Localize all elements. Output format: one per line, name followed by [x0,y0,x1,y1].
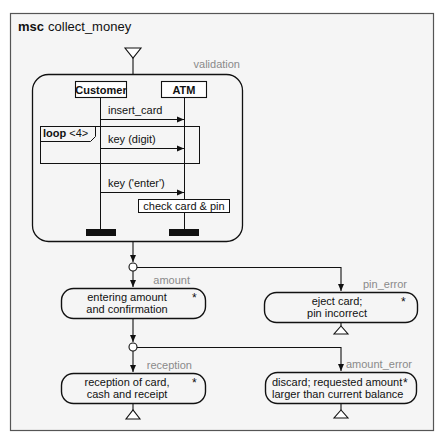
msc-diagram: msccollect_money validation Customer ATM… [0,0,442,440]
message-insert-card-label: insert_card [108,104,162,116]
state-pin-error-label: pin_error [363,278,407,290]
state-amount-error-marker: * [403,376,408,390]
state-amount-error-label: amount_error [346,358,412,370]
message-key-digit-label: key (digit) [108,133,156,145]
state-amount-label: amount [153,274,190,286]
instance-end-customer [86,229,116,236]
state-amount-line2: and confirmation [86,303,167,315]
validation-box[interactable] [33,75,243,242]
state-pin-error-line2: pin incorrect [307,307,367,319]
loop-label: loop<4> [43,127,88,139]
state-amount-line1: entering amount [87,291,167,303]
state-reception-marker: * [192,376,197,390]
state-amount-error-line1: discard; requested amount [272,376,402,388]
connector-1 [129,263,137,271]
msc-keyword: msc [18,19,44,34]
instance-end-atm [169,229,199,236]
connector-2 [129,343,137,351]
action-check-card-pin-label: check card & pin [143,200,224,212]
validation-label: validation [194,58,240,70]
instance-customer-label: Customer [75,84,127,96]
state-pin-error-marker: * [401,295,406,309]
state-reception-label: reception [147,359,192,371]
msc-name: collect_money [48,19,132,34]
state-amount-marker: * [192,291,197,305]
msc-title: msccollect_money [18,19,132,34]
message-key-enter-label: key ('enter') [108,177,165,189]
state-reception-line2: cash and receipt [87,388,168,400]
instance-atm-label: ATM [172,84,195,96]
state-pin-error-line1: eject card; [312,295,363,307]
state-reception-line1: reception of card, [85,376,170,388]
state-amount-error-line2: larger than current balance [272,388,403,400]
